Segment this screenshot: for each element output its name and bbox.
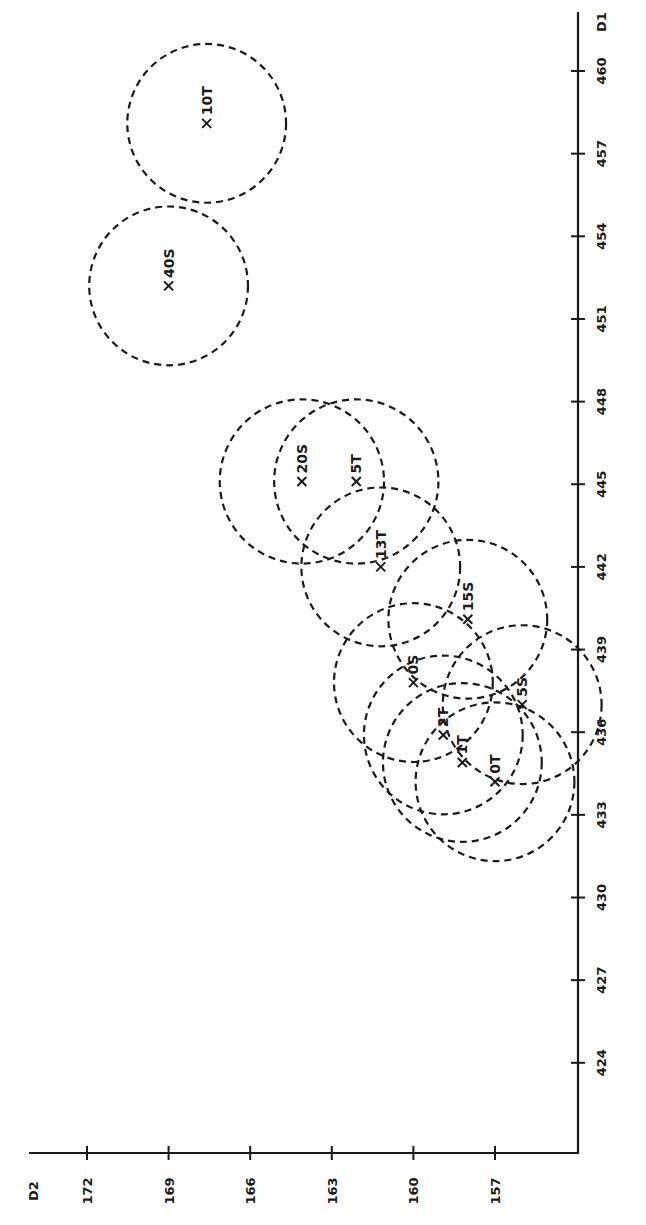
d1-tick-label: 439	[594, 636, 609, 663]
data-points: 10T40S20S5T13T15S0S2T1T0T5S	[161, 86, 531, 786]
d1-tick-label: 424	[594, 1049, 609, 1076]
d1-tick-label: 460	[594, 57, 609, 84]
d1-tick-label: 442	[594, 553, 609, 580]
point-label: 10T	[199, 86, 215, 115]
d1-tick-label: 448	[594, 388, 609, 415]
point-marker: 13T	[373, 529, 389, 571]
d2-tick-label: 160	[406, 1177, 421, 1204]
d2-axis-label: D2	[26, 1181, 41, 1201]
point-marker: 15S	[460, 582, 476, 624]
point-label: 13T	[373, 529, 389, 558]
d2-tick-label: 157	[488, 1177, 503, 1204]
point-label: 1T	[454, 735, 470, 755]
d1-tick-label: 427	[594, 967, 609, 994]
d2-tick-label: 163	[325, 1177, 340, 1204]
point-marker: 10T	[199, 86, 215, 128]
axis-labels: D2 D1	[26, 12, 609, 1201]
point-label: 0S	[405, 655, 421, 675]
d2-tick-label: 166	[243, 1177, 258, 1204]
point-label: 20S	[294, 444, 310, 474]
d1-axis-label: D1	[594, 12, 609, 32]
point-label: 5S	[514, 677, 530, 697]
d1-tick-label: 457	[594, 140, 609, 167]
point-label: 40S	[161, 248, 177, 278]
d1-tick-label: 451	[594, 305, 609, 332]
d2-axis-ticks: 172169166163160157	[80, 1146, 503, 1205]
point-marker: 0S	[405, 655, 421, 687]
point-label: 2T	[435, 707, 451, 727]
point-marker: 5T	[348, 454, 364, 486]
d1-tick-label: 430	[594, 884, 609, 911]
point-label: 5T	[348, 454, 364, 474]
confidence-circles	[89, 44, 601, 861]
point-label: 0T	[487, 754, 503, 774]
point-marker: 20S	[294, 444, 310, 486]
d1-tick-label: 445	[594, 471, 609, 498]
d2-tick-label: 172	[80, 1177, 95, 1204]
point-marker: 40S	[161, 248, 177, 290]
d1-axis-ticks: 460457454451448445442439436433430427424	[571, 57, 609, 1076]
d1-tick-label: 454	[594, 223, 609, 250]
point-label: 15S	[460, 582, 476, 612]
d2-tick-label: 169	[162, 1177, 177, 1204]
scatter-chart: 172169166163160157 460457454451448445442…	[0, 0, 646, 1225]
d1-tick-label: 433	[594, 801, 609, 828]
